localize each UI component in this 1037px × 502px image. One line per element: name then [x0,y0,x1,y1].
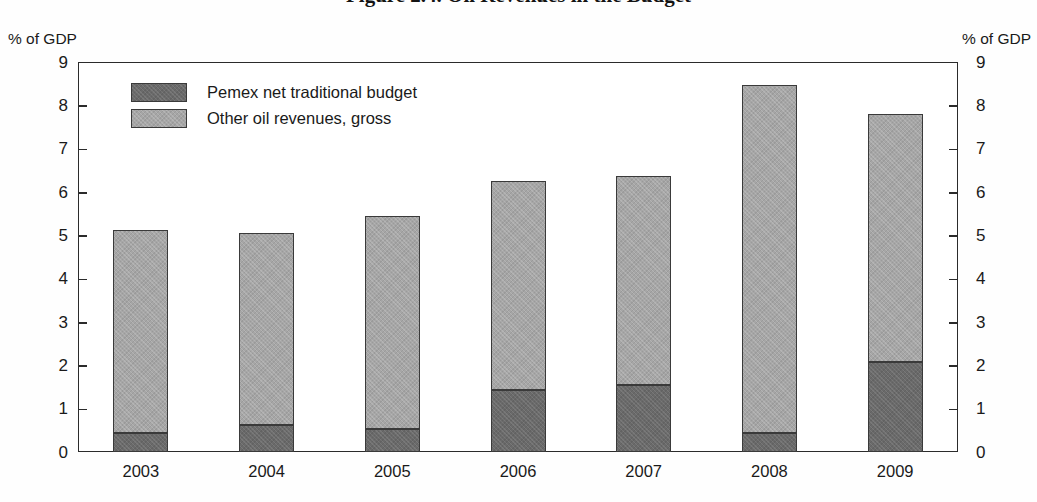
y-tick-label-left: 8 [46,96,68,114]
y-tick-label-right: 3 [976,313,998,331]
bar-group[interactable] [616,62,671,452]
y-tick-label-right: 6 [976,183,998,201]
y-tick-label-right: 4 [976,270,998,288]
left-axis-caption: % of GDP [8,30,77,48]
bar-segment-pemex[interactable] [616,385,671,452]
bar-group[interactable] [491,62,546,452]
y-tick-label-right: 0 [976,443,998,461]
bar-segment-pemex[interactable] [113,433,168,452]
legend-swatch-pemex [131,83,187,102]
bar-segment-other-oil[interactable] [113,230,168,433]
y-tick-label-left: 1 [46,400,68,418]
y-tick-label-right: 7 [976,140,998,158]
bar-segment-other-oil[interactable] [616,176,671,385]
y-tick-label-left: 9 [46,53,68,71]
legend-label: Other oil revenues, gross [207,109,391,128]
figure-title: Figure 2.4. Oil Revenues in the Budget [0,0,1037,8]
y-tick-label-right: 1 [976,400,998,418]
bar-segment-other-oil[interactable] [742,85,797,433]
y-tick-label-left: 2 [46,356,68,374]
bar-segment-other-oil[interactable] [868,114,923,362]
y-tick-label-left: 0 [46,443,68,461]
y-tick-label-left: 5 [46,226,68,244]
x-tick-label: 2009 [855,462,935,481]
figure-title-clip: Figure 2.4. Oil Revenues in the Budget [0,0,1037,11]
x-tick-label: 2003 [101,462,181,481]
y-tick-label-left: 7 [46,140,68,158]
x-tick-label: 2008 [729,462,809,481]
bar-segment-pemex[interactable] [742,433,797,452]
legend-label: Pemex net traditional budget [207,83,417,102]
y-tick-label-right: 9 [976,53,998,71]
x-tick-label: 2004 [227,462,307,481]
y-tick-label-left: 6 [46,183,68,201]
y-tick-label-left: 4 [46,270,68,288]
bar-group[interactable] [742,62,797,452]
legend: Pemex net traditional budgetOther oil re… [131,80,417,132]
legend-swatch-other [131,109,187,128]
y-tick-label-right: 8 [976,96,998,114]
bar-group[interactable] [868,62,923,452]
bar-segment-other-oil[interactable] [365,216,420,429]
chart-figure: Figure 2.4. Oil Revenues in the Budget %… [0,0,1037,502]
y-tick-label-left: 3 [46,313,68,331]
y-tick-label-right: 2 [976,356,998,374]
bar-segment-pemex[interactable] [491,390,546,452]
legend-item[interactable]: Other oil revenues, gross [131,106,417,130]
x-tick-label: 2005 [352,462,432,481]
bar-segment-other-oil[interactable] [491,181,546,390]
right-axis-caption: % of GDP [962,30,1031,48]
bar-segment-pemex[interactable] [239,425,294,452]
bar-segment-other-oil[interactable] [239,233,294,425]
x-tick-label: 2007 [604,462,684,481]
bar-segment-pemex[interactable] [365,429,420,452]
x-tick-label: 2006 [478,462,558,481]
y-tick-label-right: 5 [976,226,998,244]
legend-item[interactable]: Pemex net traditional budget [131,80,417,104]
bar-segment-pemex[interactable] [868,362,923,452]
